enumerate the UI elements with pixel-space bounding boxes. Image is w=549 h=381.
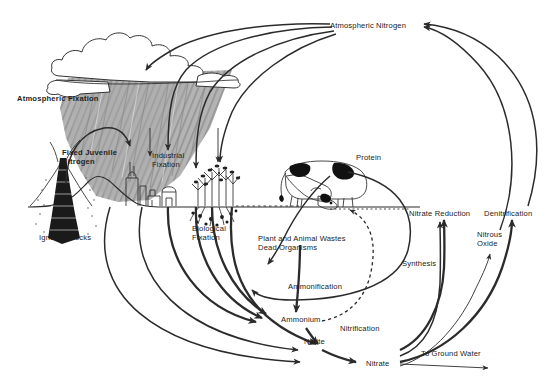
diagram-canvas: Atmospheric Nitrogen Atmospheric Fixatio…	[0, 0, 549, 381]
label-industrial-fixation-line2: Fixation	[152, 160, 180, 169]
arc-denitrification-to-atmosphere	[424, 24, 537, 206]
label-nitrous-oxide-line1: Nitrous	[477, 230, 502, 239]
arc-ammonification	[296, 245, 300, 312]
label-igneous-rocks: Igneous Rocks	[39, 233, 91, 242]
label-atmospheric-nitrogen: Atmospheric Nitrogen	[330, 21, 406, 30]
label-protein: Protein	[356, 153, 381, 162]
label-to-ground-water: To Ground Water	[421, 349, 481, 358]
label-ammonification: Ammonification	[288, 282, 342, 291]
label-nitrite: Nitrite	[304, 337, 325, 346]
label-nitrification: Nitrification	[340, 324, 380, 333]
arc-synthesis-dashed	[322, 210, 373, 321]
label-ammonium: Ammonium	[281, 315, 321, 324]
nitrogen-cycle-diagram: Atmospheric Nitrogen Atmospheric Fixatio…	[0, 0, 549, 381]
label-biological-fixation-line1: Biological	[192, 224, 226, 233]
ground-line	[28, 176, 420, 209]
label-industrial-fixation-line1: Industrial	[152, 151, 184, 160]
label-nitrate-reduction: Nitrate Reduction	[409, 209, 470, 218]
label-plant-animal-wastes-line2: Dead Organisms	[258, 243, 317, 252]
legume-plant-icon	[190, 165, 240, 227]
arc-to-ground-water	[400, 364, 488, 368]
label-plant-animal-wastes-line1: Plant and Animal Wastes	[258, 234, 346, 243]
arc-nitrite-to-nitrate	[322, 350, 356, 362]
label-synthesis: Synthesis	[402, 259, 436, 268]
label-fixed-juvenile-nitrogen-line2: Nitrogen	[62, 157, 95, 166]
label-nitrous-oxide-line2: Oxide	[477, 239, 498, 248]
arc-nitrate-to-nitrate-reduction	[400, 220, 444, 350]
label-nitrate: Nitrate	[366, 359, 389, 368]
label-fixed-juvenile-nitrogen-line1: Fixed Juvenile	[62, 148, 117, 157]
label-denitrification: Denitrification	[484, 209, 532, 218]
label-atmospheric-fixation: Atmospheric Fixation	[17, 94, 99, 103]
cow-icon	[279, 161, 367, 209]
label-biological-fixation-line2: Fixation	[192, 233, 220, 242]
arc-atmosphere-to-soil-left	[220, 34, 336, 162]
